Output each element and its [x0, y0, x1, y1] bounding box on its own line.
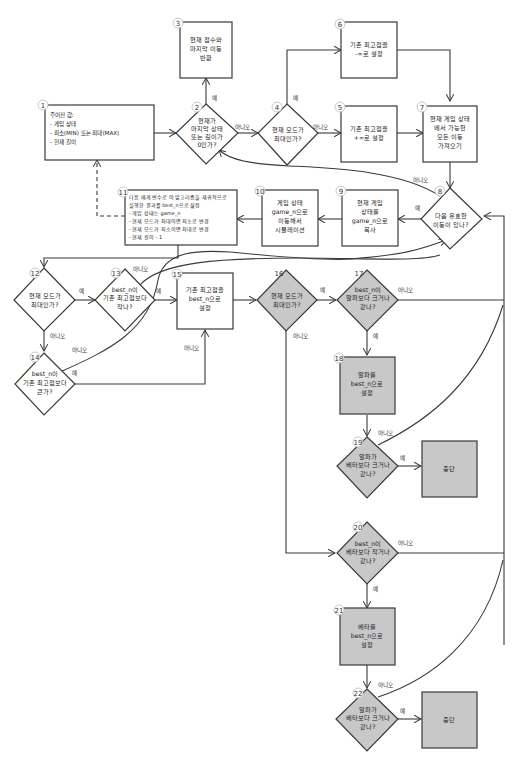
node-text: 마지막 상태 [191, 125, 223, 133]
node-number: 16 [275, 270, 284, 278]
node-number: 21 [335, 607, 344, 615]
node-text: best_n이 [32, 370, 58, 378]
node-number: 17 [355, 270, 364, 278]
node-text: 0인가? [197, 141, 216, 149]
node-19-decision: 19 알파가 베타보다 크거나 같나? [337, 437, 398, 498]
node-text: 실행한 결과를 best_n으로 설정 [129, 202, 200, 209]
node-text: 큰가? [37, 388, 52, 396]
node-11-recurse: 11 다음 매개 변수로 이 알고리즘을 재귀적으로 실행한 결과를 best_… [118, 187, 237, 245]
node-text: 기존 최고점보다 [23, 379, 67, 387]
node-text: +∞로 설정 [354, 134, 384, 141]
edge-label-2-no: 아니오 [235, 123, 250, 131]
node-number: 11 [119, 189, 128, 197]
node-text: 중단 [443, 465, 455, 472]
edge-label-20-no: 아니오 [398, 539, 413, 547]
node-4-decision: 4 현재 모드가 최대인가? [258, 102, 318, 165]
node-text: 또는 길이가 [191, 133, 223, 141]
node-number: 18 [335, 355, 344, 363]
edge-label-13-yes: 예 [156, 287, 161, 295]
node-text: 최대인가? [273, 301, 300, 309]
node-text: 베타보다 크거나 [346, 714, 390, 722]
node-text: 현재 점수와 [190, 36, 222, 44]
node-15-set-best: 15 기존 최고점을 best_n으로 설정 [172, 269, 233, 329]
edge-label-12-no: 아니오 [50, 332, 65, 340]
node-text: best_n으로 [351, 380, 383, 388]
node-number: 10 [256, 188, 265, 196]
node-text: 베타보다 크거나 [346, 461, 390, 469]
node-text: 최대인가? [31, 301, 58, 309]
node-text: 게임 상태 [277, 199, 303, 207]
node-number: 5 [338, 104, 342, 112]
node-text: - 게임 상태는 game_n [129, 210, 180, 217]
node-2-decision: 2 현재가 마지막 상태 또는 길이가 0인가? [176, 102, 238, 164]
node-text: 이동이 있나? [433, 221, 468, 229]
node-number: 19 [354, 439, 363, 447]
node-text: game_n으로 [352, 217, 389, 225]
node-number: 13 [112, 270, 121, 278]
node-18-set-alpha: 18 알파를 best_n으로 설정 [334, 353, 395, 414]
node-text: 알파를 [358, 371, 376, 379]
node-text: 현재 게임 [357, 199, 383, 207]
node-1-inputs: 1 주어진 값: - 게임 상태 - 최소(MIN) 또는 최대(MAX) - … [38, 100, 154, 160]
node-text: 기존 최고점을 [350, 125, 388, 133]
node-text: - 현재 모드가 최대이면 최소로 변경 [129, 218, 209, 225]
node-number: 7 [420, 104, 424, 112]
node-text: 중단 [443, 716, 455, 723]
node-text: 베타보다 작거나 [346, 548, 390, 556]
node-text: - 현재 모드가 최소이면 최대로 변경 [129, 226, 209, 233]
node-stop-2: 중단 [422, 692, 477, 748]
node-text: 시뮬레이션 [275, 226, 305, 234]
node-14-decision: 14 best_n이 기존 최고점보다 큰가? [15, 352, 75, 415]
edge-label-13-no: 아니오 [133, 265, 148, 273]
edge-label-16-yes: 예 [320, 286, 325, 294]
node-text: 모든 이동 [437, 133, 463, 141]
node-text: 작나? [117, 303, 132, 311]
edge-label-14-no: 아니오 [72, 346, 87, 354]
node-text: 현재 모드가 [29, 292, 61, 300]
node-text: 설정 [361, 389, 373, 396]
node-13-decision: 13 best_n이 기존 최고점보다 작나? [95, 268, 155, 331]
node-number: 2 [195, 104, 199, 112]
node-text: 다음 매개 변수로 이 알고리즘을 재귀적으로 [129, 194, 227, 201]
node-number: 14 [31, 354, 40, 362]
node-text: 반환 [200, 54, 212, 61]
node-number: 1 [41, 102, 45, 110]
node-number: 22 [354, 690, 363, 698]
node-number: 12 [31, 270, 40, 278]
node-text: 다음 유효한 [435, 212, 467, 220]
node-text: best_n으로 [189, 295, 221, 303]
node-text: best_n이 [355, 286, 381, 294]
edge-label-17-no: 아니오 [398, 286, 413, 294]
node-number: 6 [338, 21, 343, 29]
edge-label-17-yes: 예 [373, 332, 378, 340]
edge-label-16-no: 아니오 [293, 332, 308, 340]
node-text: 기존 최고점보다 [103, 294, 147, 302]
node-text: 현재 게임 상태 [430, 115, 470, 123]
edge-label-22-yes: 예 [400, 707, 405, 715]
edge-label-8-no: 아니오 [413, 176, 428, 184]
node-17-decision: 17 best_n이 알파보다 크거나 같나? [337, 270, 398, 331]
node-6-set-minus-inf: 6 기존 최고점을 -∞로 설정 [335, 19, 397, 78]
node-8-decision: 8 다음 유효한 이동이 있나? [421, 186, 482, 249]
edge-label-19-no: 아니오 [378, 429, 393, 437]
edge-label-8-yes: 예 [415, 204, 420, 212]
node-stop-1: 중단 [422, 441, 477, 497]
node-number: 9 [339, 188, 343, 196]
node-21-set-beta: 21 베타를 best_n으로 설정 [334, 605, 395, 665]
node-9-copy-state: 9 현재 게임 상태를 game_n으로 복사 [336, 186, 398, 246]
node-12-decision: 12 현재 모드가 최대인가? [14, 268, 75, 331]
node-text: - 게임 상태 [50, 120, 76, 128]
node-number: 20 [354, 524, 363, 532]
node-text: - 현재 길이 - 1 [129, 234, 162, 241]
node-text: 현재가 [198, 117, 216, 125]
node-text: 같나? [360, 723, 375, 731]
node-text: 가져오기 [438, 142, 462, 150]
node-20-decision: 20 best_n이 베타보다 작거나 같나? [337, 522, 398, 584]
node-text: - 최소(MIN) 또는 최대(MAX) [50, 129, 119, 137]
node-text: 설정 [199, 304, 211, 311]
node-text: best_n으로 [351, 632, 383, 640]
node-10-simulate: 10 게임 상태 game_n으로 이동해서 시뮬레이션 [255, 186, 318, 246]
edge-label-19-yes: 예 [400, 454, 405, 462]
edge-label-14-yes: 예 [72, 369, 77, 377]
node-text: 현재 모드가 [271, 292, 303, 300]
